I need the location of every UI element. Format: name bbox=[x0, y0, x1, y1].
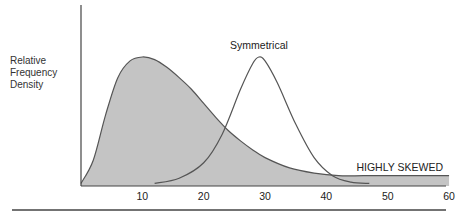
chart-canvas: 102030405060 Symmetrical HIGHLY SKEWED bbox=[0, 0, 458, 214]
x-tick-labels: 102030405060 bbox=[137, 190, 456, 202]
x-tick-label: 20 bbox=[198, 190, 210, 202]
symmetrical-annotation: Symmetrical bbox=[230, 39, 288, 51]
skewed-annotation: HIGHLY SKEWED bbox=[356, 161, 443, 173]
x-tick-label: 10 bbox=[137, 190, 149, 202]
x-tick-label: 40 bbox=[321, 190, 333, 202]
x-tick-label: 30 bbox=[259, 190, 271, 202]
x-tick-label: 60 bbox=[443, 190, 455, 202]
x-tick-label: 50 bbox=[382, 190, 394, 202]
